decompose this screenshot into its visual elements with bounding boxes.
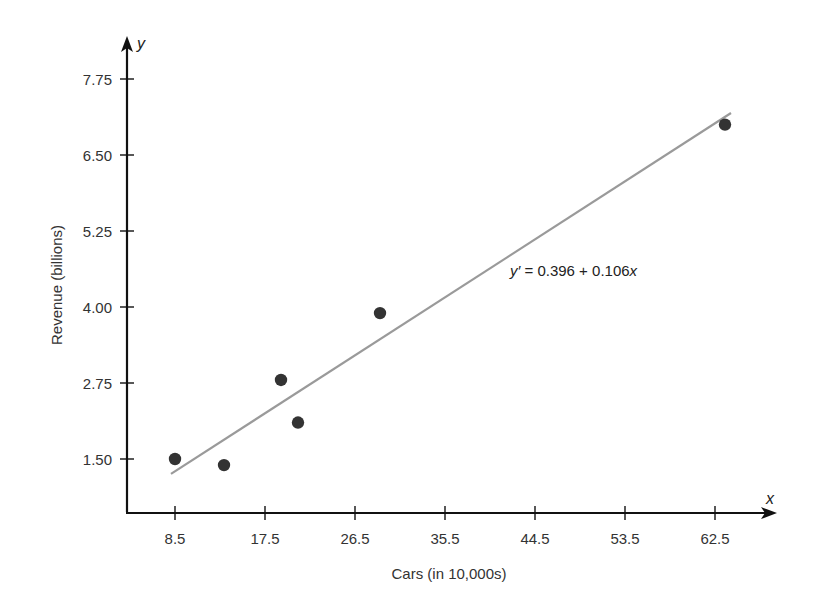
y-tick-label: 5.25 bbox=[83, 223, 112, 240]
x-tick-label: 17.5 bbox=[250, 530, 279, 547]
y-tick-label: 1.50 bbox=[83, 451, 112, 468]
equation-body: = 0.396 + 0.106 bbox=[520, 262, 629, 279]
data-point bbox=[218, 459, 230, 471]
regression-line-layer bbox=[171, 113, 731, 474]
axes bbox=[121, 36, 777, 519]
x-axis-title: Cars (in 10,000s) bbox=[391, 565, 506, 582]
y-tick-label: 2.75 bbox=[83, 375, 112, 392]
y-axis-variable: y bbox=[136, 35, 146, 52]
data-point bbox=[275, 374, 287, 386]
y-tick-label: 7.75 bbox=[83, 71, 112, 88]
data-point bbox=[292, 416, 304, 428]
equation-var: x bbox=[629, 262, 638, 279]
x-tick-label: 44.5 bbox=[520, 530, 549, 547]
regression-equation: y′ = 0.396 + 0.106x bbox=[509, 262, 638, 279]
x-tick-label: 53.5 bbox=[610, 530, 639, 547]
data-point bbox=[719, 118, 731, 130]
data-point bbox=[374, 307, 386, 319]
x-axis-variable: x bbox=[765, 490, 775, 507]
scatter-chart: 8.517.526.535.544.553.562.5 1.502.754.00… bbox=[0, 0, 816, 609]
x-tick-label: 35.5 bbox=[430, 530, 459, 547]
y-tick-label: 6.50 bbox=[83, 147, 112, 164]
x-tick-label: 8.5 bbox=[165, 530, 186, 547]
x-tick-label: 26.5 bbox=[340, 530, 369, 547]
y-tick-label: 4.00 bbox=[83, 299, 112, 316]
regression-line bbox=[171, 113, 731, 474]
y-axis-title: Revenue (billions) bbox=[48, 225, 65, 345]
data-point bbox=[169, 453, 181, 465]
x-tick-label: 62.5 bbox=[700, 530, 729, 547]
